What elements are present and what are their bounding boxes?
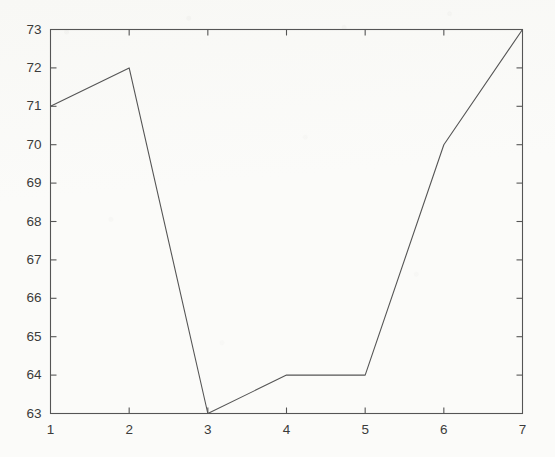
y-tick-label-73: 73 bbox=[6, 23, 42, 37]
y-tick-label-70: 70 bbox=[6, 138, 42, 152]
y-tick-label-66: 66 bbox=[6, 292, 42, 306]
y-tick-label-64: 64 bbox=[6, 368, 42, 382]
y-tick-label-68: 68 bbox=[6, 215, 42, 229]
data-line-series-1 bbox=[51, 30, 523, 414]
x-tick-label-4: 4 bbox=[283, 423, 291, 437]
y-tick-label-67: 67 bbox=[6, 253, 42, 267]
y-tick-label-69: 69 bbox=[6, 176, 42, 190]
axes-frame bbox=[51, 30, 523, 414]
x-axis-ticks bbox=[129, 30, 444, 414]
y-tick-label-65: 65 bbox=[6, 330, 42, 344]
y-tick-label-63: 63 bbox=[6, 407, 42, 421]
plot-box-border bbox=[51, 30, 523, 414]
x-tick-label-1: 1 bbox=[47, 423, 55, 437]
y-tick-label-71: 71 bbox=[6, 100, 42, 114]
x-tick-label-3: 3 bbox=[204, 423, 212, 437]
x-tick-label-7: 7 bbox=[519, 423, 527, 437]
y-tick-label-72: 72 bbox=[6, 61, 42, 75]
line-chart-figure bbox=[0, 0, 555, 457]
x-tick-label-5: 5 bbox=[361, 423, 369, 437]
y-axis-ticks bbox=[51, 68, 523, 375]
x-tick-label-6: 6 bbox=[440, 423, 448, 437]
x-tick-label-2: 2 bbox=[125, 423, 133, 437]
data-series-group bbox=[51, 30, 523, 414]
chart-page: 6364656667686970717273 1234567 bbox=[0, 0, 555, 457]
